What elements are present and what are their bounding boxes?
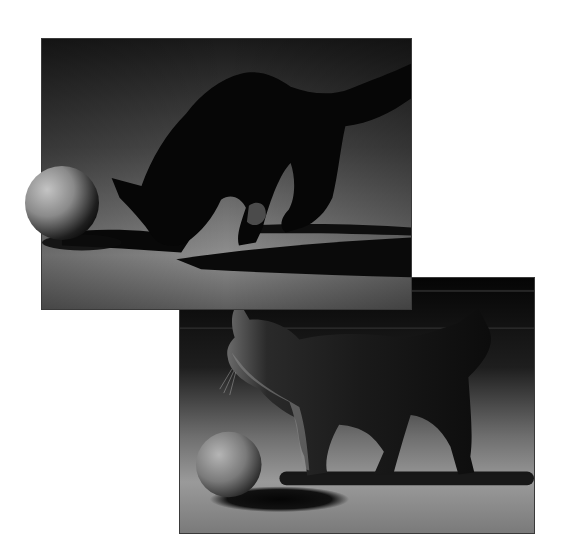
photo-kitten-walking bbox=[179, 277, 535, 534]
kitten-sniffing-image bbox=[42, 39, 411, 309]
ball bbox=[196, 432, 262, 497]
photo-kitten-sniffing bbox=[41, 38, 412, 310]
kitten-walking-image bbox=[180, 278, 534, 533]
